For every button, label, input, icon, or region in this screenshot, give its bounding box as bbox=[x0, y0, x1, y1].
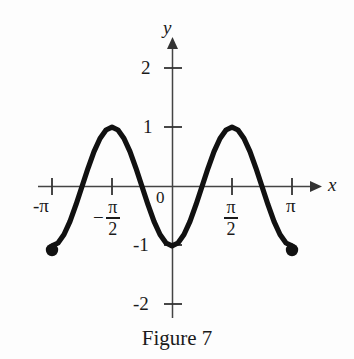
endpoint-dot-right bbox=[286, 244, 298, 256]
figure-container: y x 0 2 1 -1 -2 -π π − π 2 π 2 Figure 7 bbox=[0, 0, 354, 359]
figure-caption: Figure 7 bbox=[0, 326, 354, 351]
fraction-numerator: π bbox=[224, 198, 237, 217]
fraction-denominator: 2 bbox=[106, 219, 119, 238]
fraction-stack: π 2 bbox=[224, 198, 238, 238]
fraction-numerator: π bbox=[106, 198, 119, 217]
x-tick-label-neg-pi: -π bbox=[33, 196, 49, 215]
x-tick-label-pi-over-2: π 2 bbox=[224, 198, 238, 238]
origin-label: 0 bbox=[156, 189, 165, 206]
y-tick-label-neg2: -2 bbox=[133, 294, 149, 313]
y-axis bbox=[167, 37, 178, 318]
x-tick-label-neg-pi-over-2: − π 2 bbox=[93, 198, 120, 238]
y-tick-label-2: 2 bbox=[141, 58, 151, 77]
y-axis-label: y bbox=[163, 18, 171, 37]
y-tick-label-neg1: -1 bbox=[133, 235, 149, 254]
endpoint-dot-left bbox=[46, 244, 58, 256]
y-tick-label-1: 1 bbox=[143, 117, 153, 136]
x-axis-label: x bbox=[328, 175, 336, 194]
plot-canvas bbox=[0, 0, 354, 359]
fraction-minus-sign: − bbox=[93, 208, 104, 228]
fraction-denominator: 2 bbox=[225, 219, 238, 238]
fraction-stack: π 2 bbox=[106, 198, 120, 238]
x-tick-label-pi: π bbox=[286, 196, 296, 215]
